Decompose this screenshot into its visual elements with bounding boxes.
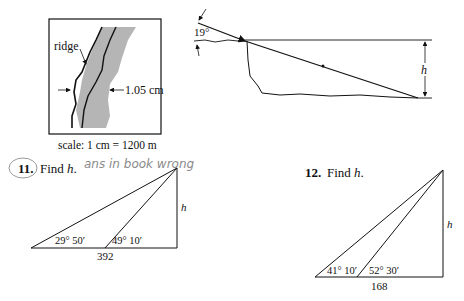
problem-11: 11. Find h. ans in book wrong 29° 50′ 49… <box>9 157 195 262</box>
handwritten-note: ans in book wrong <box>84 157 195 171</box>
problem-12-number: 12. <box>305 165 321 180</box>
p12-height-label: h <box>447 218 453 230</box>
slope-height-label: h <box>421 63 427 77</box>
sight-line-mark <box>322 65 325 68</box>
p11-base-label: 392 <box>97 250 114 262</box>
ridge-band <box>76 27 136 128</box>
scale-caption: scale: 1 cm = 1200 m <box>58 139 157 151</box>
prompt-find: Find <box>40 161 64 176</box>
problem-12: 12. Find h. 41° 10′ 52° 30′ 168 h <box>305 165 453 292</box>
ridge-label: ridge <box>54 39 79 53</box>
p12-hypotenuse-inner <box>357 170 443 277</box>
sight-line <box>245 41 418 98</box>
prompt-end: . <box>74 161 77 176</box>
p11-angle-right: 49° 10′ <box>112 235 142 246</box>
problem-11-number: 11. <box>18 161 34 176</box>
problem-11-prompt: Find h. <box>40 161 77 176</box>
problem-12-prompt: Find h. <box>327 165 364 180</box>
p11-height-label: h <box>181 201 187 213</box>
map-figure: ridge 1.05 cm scale: 1 cm = 1200 m <box>49 19 164 151</box>
width-label: 1.05 cm <box>125 83 164 97</box>
page-canvas: ridge 1.05 cm scale: 1 cm = 1200 m h 19°… <box>0 0 464 301</box>
slope-angle-label: 19° <box>194 26 209 38</box>
p12-hypotenuse-outer <box>315 170 443 277</box>
p12-base-label: 168 <box>371 280 388 292</box>
p11-hypotenuse-outer <box>31 168 177 248</box>
prompt-end: . <box>361 165 364 180</box>
angle-arrow-top <box>199 9 206 20</box>
p12-angle-right: 52° 30′ <box>369 265 399 276</box>
ground-surface <box>194 40 245 42</box>
slope-figure: h 19° <box>194 9 432 98</box>
ridge-pointer-arrow <box>80 49 86 64</box>
angle-arrow-bottom <box>197 45 199 56</box>
p12-angle-left: 41° 10′ <box>327 265 357 276</box>
prompt-find: Find <box>327 165 351 180</box>
p11-angle-left: 29° 50′ <box>55 235 85 246</box>
